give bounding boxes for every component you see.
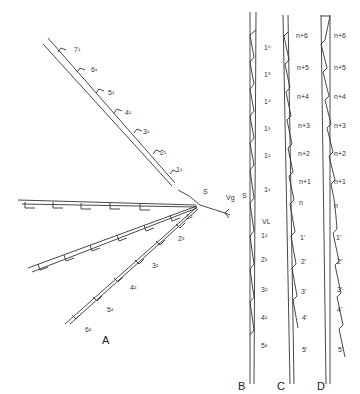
label: 1² bbox=[264, 152, 271, 159]
label: 2¹ bbox=[160, 149, 167, 156]
label: 2' bbox=[337, 258, 342, 265]
label: 1² bbox=[186, 213, 193, 220]
label: 1¹ bbox=[176, 166, 183, 173]
label: 6² bbox=[85, 326, 92, 333]
s-label: S bbox=[242, 192, 247, 199]
label: 4² bbox=[130, 284, 137, 291]
label: 5² bbox=[107, 306, 114, 313]
label: n+4 bbox=[297, 93, 309, 100]
label: 3² bbox=[152, 262, 159, 269]
vg-label: Vg bbox=[226, 194, 235, 202]
label: 1³ bbox=[264, 125, 271, 132]
label: 5¹ bbox=[108, 89, 115, 96]
vl-label: VL bbox=[262, 218, 271, 225]
panel-b-label: B bbox=[238, 380, 245, 392]
label: 1⁶ bbox=[264, 44, 271, 51]
label: n bbox=[299, 199, 303, 206]
label: n+6 bbox=[296, 32, 308, 39]
panel-a: 7¹ 6¹ 5¹ 4¹ 3¹ 2¹ 1¹ S Vg 1² 2² 3² 4² 5²… bbox=[18, 38, 235, 346]
label: n+1 bbox=[299, 178, 311, 185]
label: 1⁴ bbox=[264, 98, 271, 105]
label: 7¹ bbox=[74, 46, 81, 53]
label: n+2 bbox=[298, 150, 310, 157]
panel-a-label: A bbox=[102, 334, 110, 346]
label: 2' bbox=[301, 258, 306, 265]
label: 4¹ bbox=[125, 109, 132, 116]
label: 3' bbox=[337, 286, 342, 293]
panel-c: n+6 n+5 n+4 n+3 n+2 n+1 n 1' 2' 3' 4' 5'… bbox=[277, 15, 311, 392]
label: n+5 bbox=[297, 64, 309, 71]
label: 2² bbox=[261, 256, 268, 263]
label: 3² bbox=[261, 286, 268, 293]
label: n+1 bbox=[334, 178, 346, 185]
label: 1² bbox=[261, 232, 268, 239]
label: 5² bbox=[261, 342, 268, 349]
label: 1' bbox=[336, 234, 341, 241]
label: 3' bbox=[301, 288, 306, 295]
label: 1¹ bbox=[264, 186, 271, 193]
label: 5' bbox=[302, 346, 307, 353]
label: n+6 bbox=[334, 32, 346, 39]
label: 1⁵ bbox=[264, 71, 271, 78]
label: 4' bbox=[337, 306, 342, 313]
label: 4² bbox=[261, 314, 268, 321]
label: 1' bbox=[300, 234, 305, 241]
label: n+5 bbox=[334, 64, 346, 71]
panel-b: 1⁶ 1⁵ 1⁴ 1³ 1² 1¹ S VL 1² 2² 3² 4² 5² B bbox=[238, 12, 271, 392]
label: n bbox=[334, 202, 338, 209]
label: 3¹ bbox=[143, 128, 150, 135]
label: n+3 bbox=[334, 122, 346, 129]
label: 5' bbox=[338, 346, 343, 353]
label: 4' bbox=[302, 314, 307, 321]
label: n+3 bbox=[298, 122, 310, 129]
panel-d: n+6 n+5 n+4 n+3 n+2 n+1 n 1' 2' 3' 4' 5'… bbox=[317, 15, 346, 392]
s-label: S bbox=[203, 188, 208, 195]
panel-c-label: C bbox=[277, 380, 285, 392]
label: 2² bbox=[178, 235, 185, 242]
panel-d-label: D bbox=[317, 380, 325, 392]
label: 6¹ bbox=[91, 66, 98, 73]
label: n+2 bbox=[334, 150, 346, 157]
label: n+4 bbox=[334, 93, 346, 100]
diagram-canvas: 7¹ 6¹ 5¹ 4¹ 3¹ 2¹ 1¹ S Vg 1² 2² 3² 4² 5²… bbox=[0, 0, 360, 394]
